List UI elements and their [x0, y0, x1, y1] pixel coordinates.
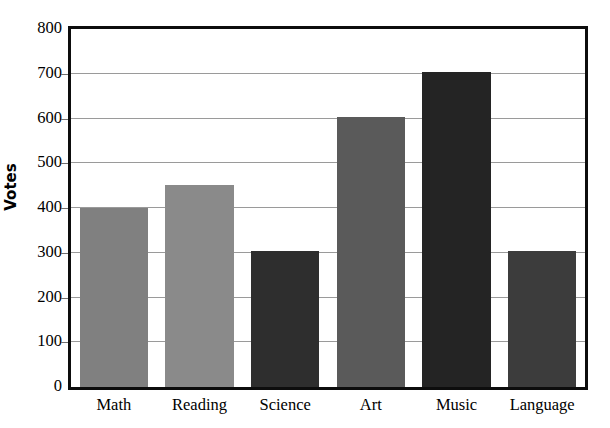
- y-axis-tick-label: 100: [6, 333, 62, 350]
- y-axis-tick-label: 300: [6, 244, 62, 261]
- y-axis-tick-label: 600: [6, 110, 62, 127]
- bars-group: [71, 29, 585, 387]
- x-axis-tick-label: Language: [482, 396, 602, 415]
- y-axis-tick-label: 800: [6, 20, 62, 37]
- y-axis-tick-label: 400: [6, 199, 62, 216]
- bar-music[interactable]: [422, 72, 491, 387]
- bar-language[interactable]: [508, 251, 577, 387]
- y-axis-tick-label: 0: [6, 378, 62, 395]
- bar-art[interactable]: [337, 117, 406, 387]
- x-axis-category-labels: MathReadingScienceArtMusicLanguage: [68, 396, 588, 422]
- plot-area: [68, 26, 588, 390]
- y-axis-tick-label: 500: [6, 154, 62, 171]
- plot-inner: [71, 29, 585, 387]
- bar-math[interactable]: [80, 208, 149, 387]
- y-axis-tick-label: 700: [6, 65, 62, 82]
- y-axis-tick-labels: 0100200300400500600700800: [0, 0, 62, 428]
- bar-reading[interactable]: [165, 185, 234, 387]
- y-axis-tick-label: 200: [6, 289, 62, 306]
- bar-science[interactable]: [251, 251, 320, 387]
- bar-chart: Votes 0100200300400500600700800 MathRead…: [0, 0, 610, 428]
